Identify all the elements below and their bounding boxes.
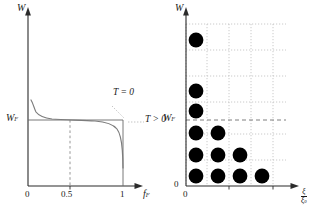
left-step-box (28, 120, 123, 186)
two-panel-figure: W WF 0 0.5 1 fF T = 0 T > 0 (0, 0, 315, 213)
left-x-axis (28, 183, 143, 189)
left-y-axis-label: W (17, 3, 25, 13)
right-y-axis (183, 7, 189, 186)
right-panel-canvas (160, 0, 315, 213)
left-fermi-level-label: WF (6, 113, 18, 123)
left-x-tick-1: 1 (120, 190, 125, 199)
right-x-axis-fraction: ξ ξ0 (301, 188, 307, 204)
left-x-axis-label-sub: F (146, 191, 150, 198)
panel-fermi-distribution: W WF 0 0.5 1 fF T = 0 T > 0 (0, 0, 160, 213)
occupancy-dots-column-0 (189, 33, 204, 184)
zero-temp-leader (112, 106, 124, 118)
right-fermi-level-label-sub: F (171, 115, 175, 122)
left-x-tick-0: 0 (25, 190, 30, 199)
panel-occupancy-grid: W WF 0 0 ξ ξ0 (160, 0, 315, 213)
right-x-axis-denominator-sub: 0 (304, 199, 306, 204)
left-panel-canvas (0, 0, 160, 213)
right-x-axis-label: ξ ξ0 (301, 187, 307, 204)
right-fermi-level-label: WF (163, 113, 175, 123)
right-x-tick-0: 0 (183, 190, 188, 199)
left-x-axis-label: fF (143, 189, 150, 199)
left-fermi-level-label-sub: F (14, 115, 18, 122)
left-y-axis (25, 7, 31, 186)
right-x-axis-denominator: ξ0 (301, 196, 307, 205)
right-x-axis (186, 183, 299, 189)
occupancy-dots-column-1 (211, 126, 226, 184)
right-y-tick-0: 0 (174, 180, 179, 189)
annotation-zero-temperature: T = 0 (113, 88, 134, 98)
fermi-dirac-curve (31, 100, 123, 168)
occupancy-dots-column-3 (255, 169, 270, 184)
left-x-tick-05: 0.5 (61, 190, 72, 199)
right-y-axis-label: W (175, 3, 183, 13)
occupancy-dots-column-2 (233, 148, 248, 184)
